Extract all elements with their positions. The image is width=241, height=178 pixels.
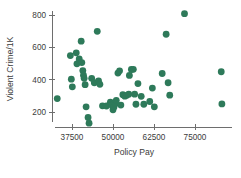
data-point	[219, 101, 226, 108]
y-axis-title: Violent Crime/1K	[5, 37, 15, 102]
data-point	[73, 49, 80, 56]
data-point	[138, 93, 145, 100]
data-point	[81, 75, 88, 82]
y-tick-label: 200	[32, 108, 46, 117]
data-point	[68, 76, 75, 83]
x-tick-label: 75000	[184, 133, 207, 142]
data-point	[149, 85, 156, 92]
data-point	[78, 59, 85, 66]
data-point	[126, 72, 133, 79]
data-point	[117, 102, 124, 109]
data-point	[54, 95, 61, 102]
data-point	[85, 114, 92, 121]
data-points	[54, 10, 225, 126]
x-axis-tick-labels: 37500500006250075000	[61, 133, 207, 142]
x-axis-title: Policy Pay	[114, 147, 155, 157]
data-point	[86, 120, 93, 127]
data-point	[151, 103, 158, 110]
y-tick-label: 800	[32, 11, 46, 20]
y-tick-label: 400	[32, 76, 46, 85]
data-point	[130, 66, 137, 73]
x-tick-label: 37500	[61, 133, 84, 142]
data-point	[69, 83, 76, 90]
data-point	[131, 91, 138, 98]
data-point	[125, 91, 132, 98]
data-point	[218, 68, 225, 75]
data-point	[78, 38, 85, 45]
data-point	[82, 81, 89, 88]
y-axis: 200400600800	[32, 11, 55, 122]
data-point	[116, 67, 123, 74]
y-axis-tick-labels: 200400600800	[32, 11, 46, 117]
y-tick-label: 600	[32, 43, 46, 52]
plot-canvas: 200400600800 37500500006250075000 Violen…	[0, 0, 241, 178]
data-point	[159, 70, 166, 77]
data-point	[165, 79, 172, 86]
x-axis: 37500500006250075000	[55, 124, 232, 142]
data-point	[67, 52, 74, 59]
data-point	[181, 10, 188, 17]
scatter-plot-figure: 200400600800 37500500006250075000 Violen…	[0, 0, 241, 178]
data-point	[166, 92, 173, 99]
data-point	[133, 101, 140, 108]
data-point	[146, 98, 153, 105]
x-tick-label: 50000	[102, 133, 125, 142]
data-point	[135, 80, 142, 87]
data-point	[83, 103, 90, 110]
data-point	[96, 81, 103, 88]
data-point	[140, 101, 147, 108]
data-point	[94, 28, 101, 35]
x-tick-label: 62500	[143, 133, 166, 142]
data-point	[163, 31, 170, 38]
